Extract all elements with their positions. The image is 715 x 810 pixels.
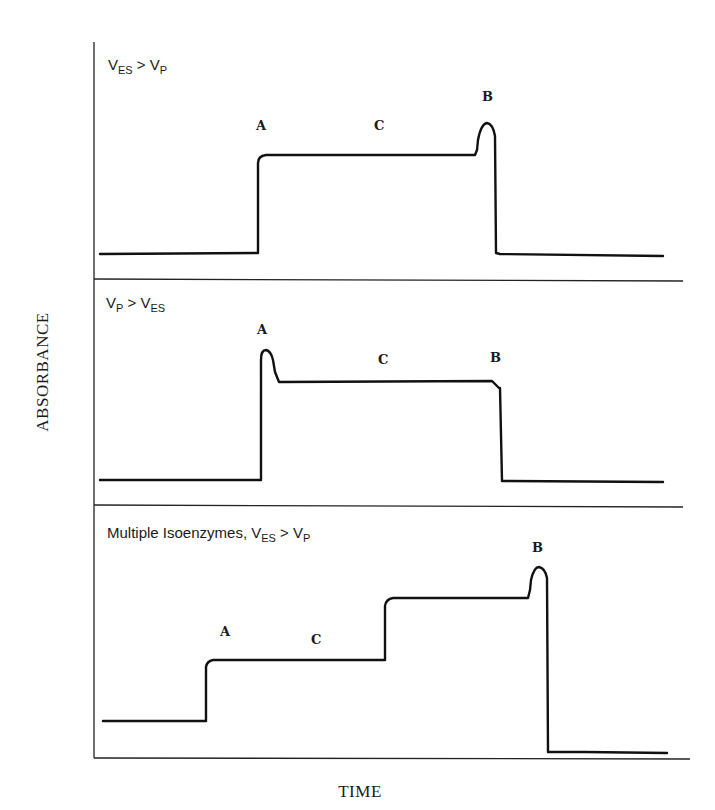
panel-title: Multiple Isoenzymes, VES > VP [107,524,310,544]
absorbance-trace [100,123,663,256]
panel-title: VES > VP [108,56,167,76]
marker-c: C [378,352,388,367]
absorbance-time-figure: VES > VP A C B VP > VES A C B Multiple I… [0,0,715,810]
marker-c: C [311,632,321,647]
marker-b: B [482,89,493,104]
absorbance-trace [103,567,667,753]
panel-multiple-isoenzymes: Multiple Isoenzymes, VES > VP A C B [103,524,667,753]
x-axis-line [94,758,690,759]
panel-divider-2 [94,505,683,507]
panel-divider-1 [94,279,683,281]
panel-ves-gt-vp: VES > VP A C B [100,56,663,256]
marker-a: A [219,624,231,639]
marker-c: C [374,118,384,133]
panel-vp-gt-ves: VP > VES A C B [100,294,663,482]
absorbance-trace [100,350,663,482]
marker-a: A [255,118,267,133]
x-axis-label: TIME [338,782,382,801]
y-axis-label: ABSORBANCE [33,312,52,431]
marker-b: B [490,350,501,365]
marker-a: A [256,322,268,337]
marker-b: B [532,540,543,555]
axes-frame [94,42,690,759]
panel-title: VP > VES [106,294,165,314]
